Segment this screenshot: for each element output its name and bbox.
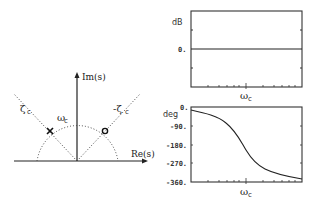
figure: Im(s) Re(s) ω c ζ c -ζ c dB	[0, 0, 317, 206]
imag-axis-arrow-icon	[75, 72, 80, 78]
magnitude-plot: dB 0. ω c	[172, 11, 302, 103]
magnitude-unit-label: dB	[172, 18, 183, 27]
phase-unit-label: deg	[163, 110, 178, 119]
phase-tick-minus360: -360.	[166, 179, 187, 187]
pole-marker	[47, 128, 53, 134]
omega-subscript: c	[64, 117, 68, 125]
imag-axis-label: Im(s)	[82, 72, 106, 82]
phase-tick-0: 0.	[180, 104, 188, 112]
zeta-right-subscript: c	[125, 108, 129, 116]
phase-tick-minus90: -90.	[170, 123, 187, 131]
phase-frame	[191, 107, 302, 182]
phase-x-label: ω	[240, 186, 248, 197]
s-plane-diagram: Im(s) Re(s) ω c ζ c -ζ c	[14, 72, 155, 164]
zeta-right-label: -ζ	[113, 103, 122, 114]
zeta-left-label: ζ	[20, 103, 26, 114]
real-axis-label: Re(s)	[131, 149, 155, 159]
magnitude-x-subscript: c	[248, 95, 252, 103]
phase-plot: deg 0. -90. -180. -270. -360. ω c	[163, 104, 302, 199]
zero-marker	[102, 128, 107, 133]
phase-x-subscript: c	[248, 191, 252, 199]
magnitude-zero-label: 0.	[178, 46, 186, 54]
phase-tick-minus270: -270.	[166, 160, 187, 168]
phase-tick-minus180: -180.	[166, 142, 187, 150]
zeta-left-subscript: c	[27, 108, 31, 116]
real-axis-arrow-icon	[142, 159, 148, 164]
magnitude-x-label: ω	[240, 90, 248, 101]
phase-curve	[191, 110, 302, 179]
